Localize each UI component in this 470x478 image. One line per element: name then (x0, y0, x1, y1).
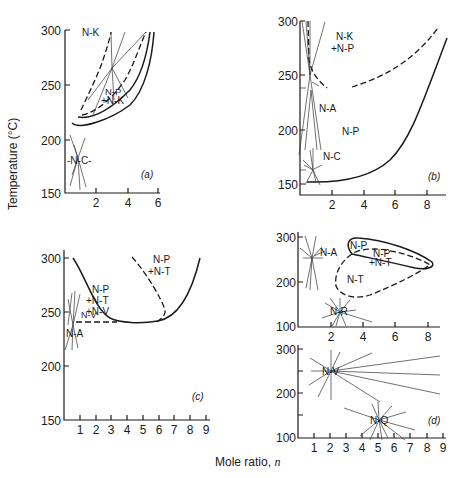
panel-d-na-star (300, 236, 323, 290)
panel-b-nc-star (303, 148, 320, 185)
phase-diagram-figure: 300 250 200 150 2 4 6 N-K N-P +N-K -N-C-… (0, 0, 470, 478)
region-label-np: N-P (342, 126, 360, 137)
panel-b-nk-np-boundary (352, 28, 438, 87)
panel-d-lower-xtick: 5 (375, 441, 382, 455)
panel-b-xtick: 6 (392, 198, 399, 212)
panel-b-nc-arrow (314, 165, 322, 169)
panel-c: 300 250 200 150 1 2 3 4 5 6 7 8 9 N-P +N… (41, 250, 210, 437)
region-label-nt: N-T (347, 274, 364, 285)
panel-d-lower-xtick: 7 (407, 441, 414, 455)
panel-c-xtick: 4 (124, 423, 131, 437)
panel-d-upper-xtick: 8 (425, 330, 432, 344)
region-label-na: N-A (66, 328, 84, 339)
panel-b-na-arrow (312, 82, 319, 86)
region-label-nt1: +N-T (86, 295, 109, 306)
panel-d-lower-xtick: 9 (440, 441, 447, 455)
panel-b-na-boundary (308, 21, 327, 88)
region-label-nk: N-K (82, 27, 100, 38)
x-axis-label-text: Mole ratio, (215, 455, 271, 469)
panel-a-xtick: 2 (93, 196, 100, 210)
panel-b-ytick: 200 (278, 124, 298, 138)
panel-d-upper-ytick: 300 (276, 231, 296, 245)
region-label-nq: N-Q (370, 415, 389, 426)
panel-d-lower-ytick: 200 (276, 387, 296, 401)
x-axis-variable: n (274, 455, 280, 469)
panel-b: 300 250 200 150 2 4 6 8 N-K +N-P N-A N-P… (278, 15, 447, 212)
panel-d-upper: 300 200 100 2 4 6 8 N-A N-P N-P +N-T N-T… (276, 231, 440, 344)
region-label-nv: N-V (322, 366, 340, 377)
panel-c-ytick: 150 (41, 414, 61, 428)
panel-b-tag: (b) (428, 171, 440, 182)
region-label-nv: N-V (81, 310, 97, 320)
panel-c-xtick: 9 (203, 423, 210, 437)
region-label-nt2: +N-T (369, 257, 392, 268)
panel-c-xtick: 3 (108, 423, 115, 437)
panel-b-dash-marks (300, 88, 306, 170)
panel-c-xtick: 6 (156, 423, 163, 437)
region-label-np: N-P (350, 240, 368, 251)
region-label-nr: N-R (330, 306, 348, 317)
panel-c-ytick: 200 (41, 360, 61, 374)
panel-c-ytick: 250 (41, 306, 61, 320)
panel-a-ytick: 250 (41, 79, 61, 93)
panel-b-ytick: 150 (278, 178, 298, 192)
panel-a: 300 250 200 150 2 4 6 N-K N-P +N-K -N-C-… (41, 24, 162, 210)
panel-a-ytick: 300 (41, 24, 61, 38)
panel-d-upper-ytick: 200 (276, 276, 296, 290)
region-label-nc: N-C (323, 151, 341, 162)
panel-c-xtick: 1 (77, 423, 84, 437)
panel-a-xtick: 4 (125, 196, 132, 210)
x-axis-label: Mole ratio, n (215, 455, 280, 470)
panel-d-lower-ytick: 100 (276, 431, 296, 445)
panel-c-tag: (c) (192, 391, 204, 402)
panel-b-ytick: 250 (278, 69, 298, 83)
panel-c-xtick: 7 (171, 423, 178, 437)
panel-a-ytick: 150 (41, 187, 61, 201)
region-label-nt2: +N-T (148, 266, 171, 277)
panel-c-xtick: 5 (140, 423, 147, 437)
panel-d-upper-ytick: 100 (276, 320, 296, 334)
region-label-np2: N-P (153, 254, 171, 265)
panel-d-lower: 300 200 100 1 2 3 4 5 6 7 8 9 N-V N-Q (d… (276, 343, 447, 455)
panel-b-xtick: 2 (329, 198, 336, 212)
panel-d-lower-xtick: 3 (343, 441, 350, 455)
panel-d-lower-xtick: 1 (311, 441, 318, 455)
panel-d-lower-xtick: 6 (391, 441, 398, 455)
panel-c-na-star (65, 291, 80, 350)
panel-d-tag: (d) (428, 415, 440, 426)
y-axis-label-text: Temperature (°C) (6, 118, 20, 210)
panel-d-lower-xtick: 2 (327, 441, 334, 455)
panel-d-upper-xtick: 2 (328, 330, 335, 344)
panel-c-ytick: 300 (41, 252, 61, 266)
y-axis-label: Temperature (°C) (6, 118, 20, 210)
panel-d-upper-xtick: 6 (392, 330, 399, 344)
panel-a-ytick: 200 (41, 134, 61, 148)
region-label-npk: +N-K (101, 95, 124, 106)
panel-b-xtick: 4 (361, 198, 368, 212)
region-label-nk: N-K (336, 31, 354, 42)
panel-d-upper-xtick: 4 (360, 330, 367, 344)
panel-b-xtick: 8 (424, 198, 431, 212)
panel-a-tag: (a) (141, 169, 153, 180)
panel-d-lower-xtick: 8 (424, 441, 431, 455)
panel-d-lower-xtick: 4 (359, 441, 366, 455)
region-label-pnp: +N-P (331, 43, 354, 54)
region-label-na: N-A (320, 247, 338, 258)
panel-c-xtick: 8 (187, 423, 194, 437)
panel-b-ytick: 300 (278, 15, 298, 29)
panel-c-axes (64, 250, 210, 420)
panel-a-xtick: 6 (155, 196, 162, 210)
panel-d-lower-ytick: 300 (276, 343, 296, 357)
region-label-na: N-A (319, 103, 337, 114)
panel-c-xtick: 2 (93, 423, 100, 437)
region-label-np1: N-P (92, 284, 110, 295)
region-label-nc: -N-C- (67, 155, 91, 166)
